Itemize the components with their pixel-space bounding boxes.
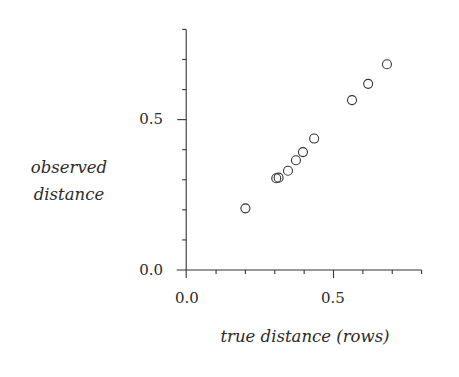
x-tick-label-0.5: 0.5	[321, 289, 345, 307]
y-axis-label-line1: observed	[31, 158, 107, 177]
x-tick-label-0: 0.0	[175, 289, 199, 307]
data-point-circle-icon	[298, 148, 307, 157]
y-axis-label-line2: distance	[34, 185, 105, 204]
data-point-circle-icon	[310, 134, 319, 143]
y-tick-label-0.5: 0.5	[139, 110, 163, 128]
data-point-circle-icon	[364, 79, 373, 88]
data-point-circle-icon	[291, 156, 300, 165]
data-points	[241, 60, 392, 213]
x-axis-label: true distance (rows)	[220, 327, 389, 346]
data-point-circle-icon	[348, 96, 357, 105]
y-tick-label-0: 0.0	[139, 261, 163, 279]
scatter-chart: 0.0 0.5 0.0 0.5 true distance (rows) obs…	[0, 0, 459, 377]
data-point-circle-icon	[284, 166, 293, 175]
data-point-circle-icon	[382, 60, 391, 69]
data-point-circle-icon	[241, 204, 250, 213]
